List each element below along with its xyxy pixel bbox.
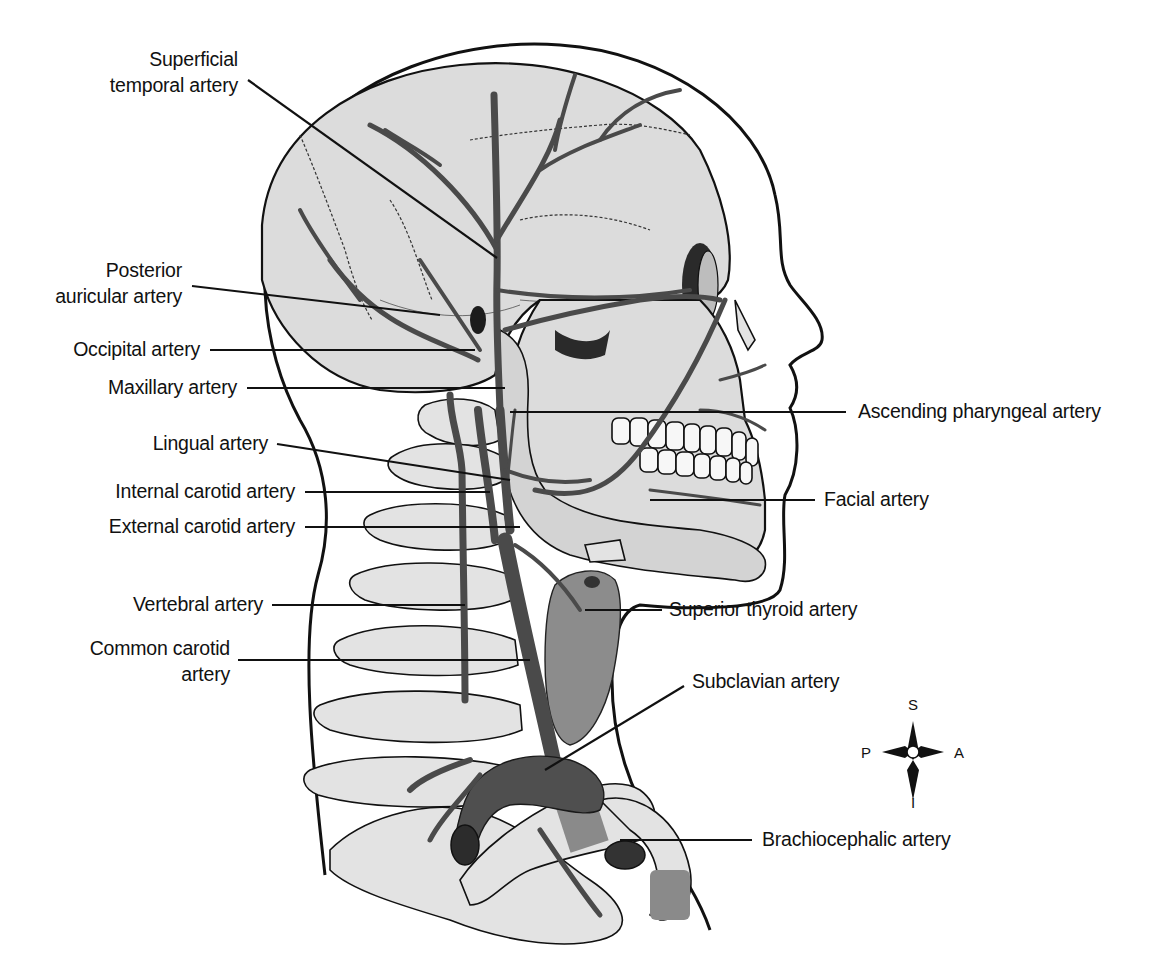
anatomy-figure: Superficial temporal artery Posterior au… — [0, 0, 1172, 968]
compass-posterior: P — [861, 744, 871, 761]
orientation-compass: S I P A — [861, 696, 964, 811]
label-brachiocephalic: Brachiocephalic artery — [762, 828, 951, 850]
cervical-vertebrae — [304, 399, 522, 807]
compass-rose-icon — [882, 721, 944, 800]
label-subclavian: Subclavian artery — [692, 670, 840, 692]
label-facial: Facial artery — [824, 488, 929, 510]
label-occipital: Occipital artery — [73, 338, 200, 360]
compass-anterior: A — [954, 744, 964, 761]
rib-band — [650, 870, 690, 920]
label-maxillary: Maxillary artery — [108, 376, 237, 398]
label-common-carotid-1: Common carotid — [90, 637, 230, 659]
label-superficial-temporal-2: temporal artery — [110, 74, 239, 96]
label-common-carotid-2: artery — [181, 663, 230, 685]
compass-inferior: I — [911, 794, 915, 811]
label-ascending-pharyngeal: Ascending pharyngeal artery — [858, 400, 1101, 422]
compass-superior: S — [908, 696, 918, 713]
label-internal-carotid: Internal carotid artery — [115, 480, 295, 502]
subclavian-cut-end — [451, 825, 479, 865]
nasal-bone — [735, 300, 755, 350]
label-superior-thyroid: Superior thyroid artery — [669, 598, 858, 620]
label-posterior-auricular-2: auricular artery — [55, 285, 182, 307]
external-auditory-meatus — [470, 306, 486, 334]
brachiocephalic-trunk — [605, 841, 645, 869]
label-vertebral: Vertebral artery — [133, 593, 264, 615]
head-neck-illustration — [262, 44, 822, 944]
label-lingual: Lingual artery — [153, 432, 269, 454]
label-posterior-auricular-1: Posterior — [106, 259, 183, 281]
thyroid-cartilage-notch — [584, 576, 600, 588]
label-external-carotid: External carotid artery — [109, 515, 296, 537]
thyroid-gland — [545, 571, 621, 745]
labels-left: Superficial temporal artery Posterior au… — [55, 48, 295, 685]
label-superficial-temporal-1: Superficial — [149, 48, 238, 70]
